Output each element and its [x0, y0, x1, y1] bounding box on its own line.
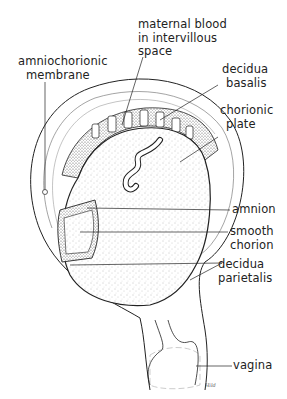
label-chorionic-plate: chorionic plate: [220, 104, 273, 131]
label-smooth-chorion: smooth chorion: [230, 225, 274, 252]
label-amnion: amnion: [232, 203, 276, 217]
label-maternal-blood: maternal blood in intervillous space: [138, 18, 227, 59]
label-amniochorionic-membrane: amniochorionic membrane: [18, 55, 108, 82]
label-decidua-parietalis: decidua parietalis: [218, 258, 272, 285]
label-decidua-basalis: decidua basalis: [222, 63, 268, 90]
artist-signature: Hild: [205, 382, 216, 388]
label-vagina: vagina: [233, 359, 272, 373]
